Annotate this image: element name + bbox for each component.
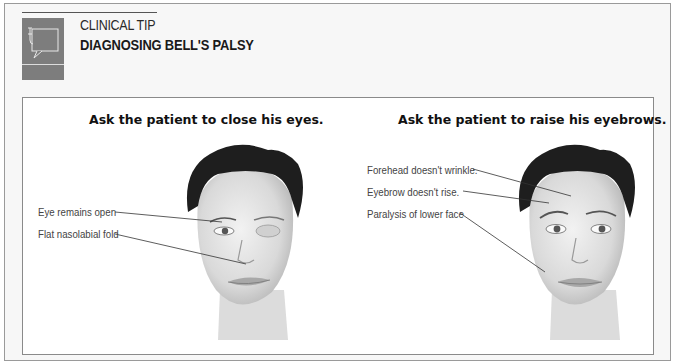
tip-title: DIAGNOSING BELL'S PALSY — [80, 36, 254, 53]
label-forehead-doesnt-wrinkle: Forehead doesn't wrinkle. — [367, 164, 478, 176]
label-eye-remains-open: Eye remains open — [38, 206, 116, 218]
tip-kicker: CLINICAL TIP — [80, 17, 155, 33]
panel-heading-close-eyes: Ask the patient to close his eyes. — [89, 112, 324, 127]
face-raised-eyebrow-illustration — [510, 140, 645, 345]
face-one-eye-open-illustration — [180, 140, 310, 345]
header-rule — [22, 12, 157, 13]
label-paralysis-lower-face: Paralysis of lower face — [367, 208, 464, 220]
label-flat-nasolabial-fold: Flat nasolabial fold — [38, 228, 119, 240]
speech-bubble-stethoscope-icon — [22, 18, 64, 80]
label-eyebrow-doesnt-rise: Eyebrow doesn't rise. — [367, 186, 459, 198]
panel-heading-raise-eyebrows: Ask the patient to raise his eyebrows. — [398, 112, 666, 127]
